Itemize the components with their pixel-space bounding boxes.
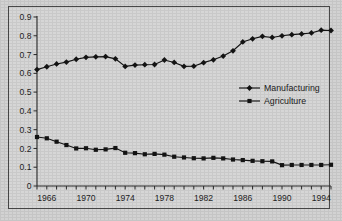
series-agriculture: [35, 135, 333, 167]
data-point-marker: [250, 36, 256, 42]
data-point-marker: [319, 163, 323, 167]
line-chart: 00.10.20.30.40.50.60.70.80.9196619701974…: [0, 0, 342, 221]
data-point-marker: [64, 143, 68, 147]
y-tick-label: 0.6: [20, 68, 32, 78]
x-tick-label: 1982: [194, 193, 213, 203]
x-tick-label: 1970: [76, 193, 95, 203]
legend-label: Manufacturing: [264, 83, 320, 93]
data-point-marker: [289, 32, 295, 38]
data-point-marker: [94, 148, 98, 152]
data-point-marker: [133, 151, 137, 155]
data-point-marker: [318, 27, 324, 33]
data-point-marker: [309, 30, 315, 36]
data-point-marker: [142, 62, 148, 68]
series-line: [37, 137, 331, 165]
data-point-marker: [221, 156, 225, 160]
data-point-marker: [45, 136, 49, 140]
data-point-marker: [191, 63, 197, 69]
data-point-marker: [300, 163, 304, 167]
data-point-marker: [143, 152, 147, 156]
data-point-marker: [328, 28, 334, 34]
y-tick-label: 0.8: [20, 31, 32, 41]
y-tick-label: 0.4: [20, 106, 32, 116]
series-manufacturing: [34, 27, 334, 72]
data-point-marker: [73, 56, 79, 62]
y-tick-label: 0.3: [20, 125, 32, 135]
data-point-marker: [123, 151, 127, 155]
data-point-marker: [103, 54, 109, 60]
y-tick-label: 0: [27, 181, 32, 191]
data-point-marker: [251, 159, 255, 163]
data-point-marker: [247, 99, 251, 103]
data-point-marker: [132, 62, 138, 68]
chart-legend: ManufacturingAgriculture: [239, 83, 320, 106]
data-point-marker: [211, 57, 217, 63]
data-point-marker: [152, 62, 158, 68]
data-point-marker: [280, 163, 284, 167]
data-point-marker: [172, 155, 176, 159]
legend-label: Agriculture: [264, 96, 306, 106]
data-point-marker: [181, 63, 187, 69]
data-point-marker: [260, 33, 266, 39]
data-point-marker: [55, 140, 59, 144]
data-point-marker: [162, 153, 166, 157]
data-point-marker: [241, 158, 245, 162]
data-point-marker: [269, 35, 275, 41]
legend-item-manufacturing: Manufacturing: [239, 83, 320, 93]
data-point-marker: [93, 54, 99, 60]
chart-page: 00.10.20.30.40.50.60.70.80.9196619701974…: [0, 0, 342, 221]
y-tick-label: 0.5: [20, 87, 32, 97]
data-point-marker: [74, 146, 78, 150]
y-axis-ticks: 00.10.20.30.40.50.60.70.80.9: [20, 12, 37, 191]
data-point-marker: [64, 59, 70, 65]
data-point-marker: [202, 156, 206, 160]
data-point-marker: [279, 33, 285, 39]
data-point-marker: [201, 60, 207, 66]
data-point-marker: [35, 135, 39, 139]
data-point-marker: [270, 159, 274, 163]
x-tick-label: 1994: [312, 193, 331, 203]
data-point-marker: [231, 157, 235, 161]
data-point-marker: [171, 60, 177, 66]
data-point-marker: [211, 156, 215, 160]
data-point-marker: [182, 155, 186, 159]
x-axis-ticks: 19661970197419781982198619901994: [37, 186, 331, 203]
data-point-marker: [192, 156, 196, 160]
y-tick-label: 0.9: [20, 12, 32, 22]
chart-plot-area: 00.10.20.30.40.50.60.70.80.9196619701974…: [0, 0, 342, 221]
x-tick-label: 1986: [233, 193, 252, 203]
data-point-marker: [84, 146, 88, 150]
data-point-marker: [247, 85, 253, 91]
data-point-marker: [299, 31, 305, 37]
x-tick-label: 1978: [155, 193, 174, 203]
data-point-marker: [44, 64, 50, 70]
data-point-marker: [162, 57, 168, 63]
data-point-marker: [54, 61, 60, 67]
data-point-marker: [260, 159, 264, 163]
y-tick-label: 0.7: [20, 50, 32, 60]
x-tick-label: 1974: [116, 193, 135, 203]
y-tick-label: 0.1: [20, 162, 32, 172]
data-point-marker: [83, 54, 89, 60]
data-point-marker: [220, 53, 226, 59]
legend-item-agriculture: Agriculture: [239, 96, 306, 106]
data-point-marker: [329, 163, 333, 167]
data-point-marker: [104, 147, 108, 151]
data-point-marker: [290, 163, 294, 167]
data-point-marker: [34, 67, 40, 73]
y-tick-label: 0.2: [20, 144, 32, 154]
x-tick-label: 1966: [37, 193, 56, 203]
data-point-marker: [113, 146, 117, 150]
data-point-marker: [309, 163, 313, 167]
data-point-marker: [153, 152, 157, 156]
x-tick-label: 1990: [272, 193, 291, 203]
